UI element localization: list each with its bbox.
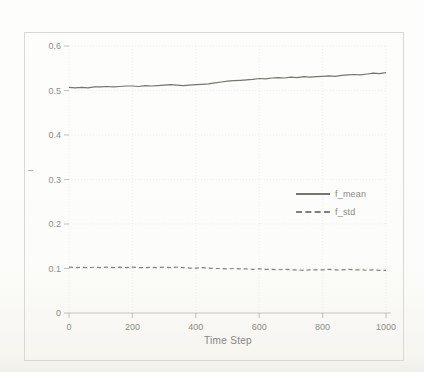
scanned-page: 00.10.20.30.40.50.602004006008001000 – T… (0, 0, 424, 372)
svg-text:0.3: 0.3 (48, 175, 61, 185)
legend-line-solid-icon (296, 193, 330, 195)
legend-item-f-mean: f_mean (296, 188, 366, 200)
svg-text:0.1: 0.1 (48, 264, 61, 274)
svg-text:0.5: 0.5 (48, 86, 61, 96)
legend-item-f-std: f_std (296, 206, 366, 218)
y-axis-marker: – (28, 165, 33, 175)
legend-label-f-std: f_std (335, 207, 356, 217)
svg-text:400: 400 (188, 322, 203, 332)
svg-text:0.6: 0.6 (48, 41, 61, 51)
svg-text:1000: 1000 (376, 322, 396, 332)
legend-label-f-mean: f_mean (335, 189, 366, 199)
svg-text:600: 600 (252, 322, 267, 332)
svg-text:0.2: 0.2 (48, 219, 61, 229)
x-axis-title: Time Step (173, 335, 283, 346)
svg-text:0.4: 0.4 (48, 130, 61, 140)
svg-text:200: 200 (125, 322, 140, 332)
chart-figure: 00.10.20.30.40.50.602004006008001000 – T… (24, 32, 404, 361)
svg-text:0: 0 (56, 308, 61, 318)
legend-line-dashed-icon (296, 211, 330, 213)
svg-text:800: 800 (315, 322, 330, 332)
svg-text:0: 0 (66, 322, 71, 332)
legend: f_mean f_std (296, 188, 366, 218)
